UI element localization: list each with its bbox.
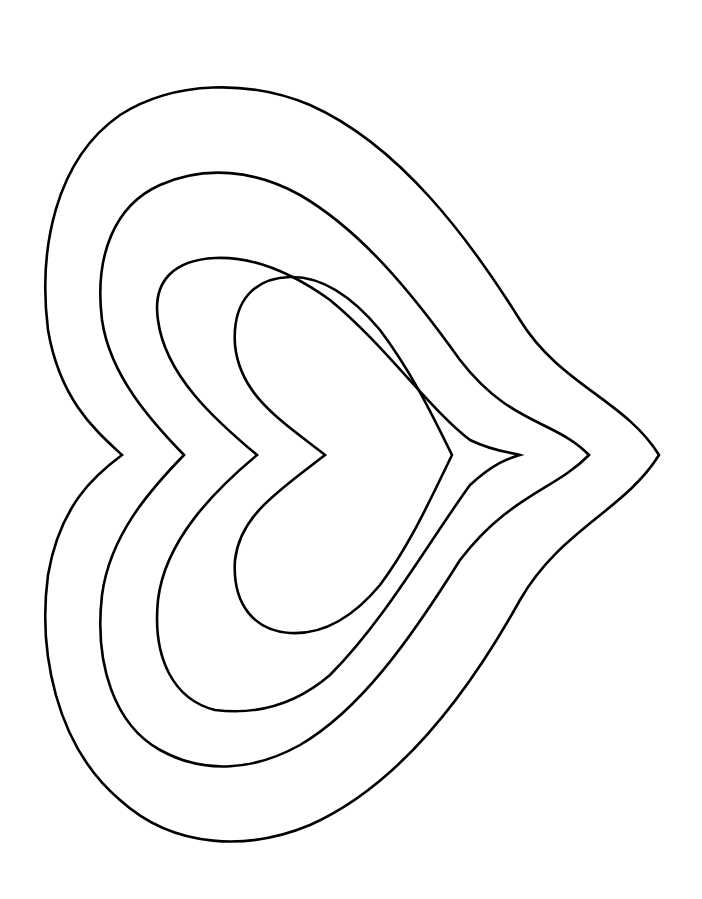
heart-outline-second xyxy=(100,173,589,767)
heart-outline-third xyxy=(157,258,520,711)
nested-hearts-canvas xyxy=(0,0,702,899)
heart-outline-inner xyxy=(235,277,452,633)
